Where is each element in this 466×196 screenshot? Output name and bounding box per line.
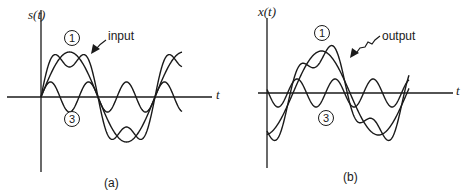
y-axis-label: s(t) (28, 7, 45, 22)
label-1: 1 (69, 32, 75, 44)
label-3: 3 (323, 112, 329, 124)
output-label: output (382, 29, 416, 43)
t-axis-label: t (456, 83, 460, 98)
arrow-head-icon (350, 48, 359, 58)
output-arrow (357, 36, 380, 52)
caption-b: (b) (343, 170, 358, 184)
caption-a: (a) (104, 176, 119, 190)
input-label: input (108, 29, 135, 43)
panel-a: s(t) t 1 3 input (a) (7, 7, 220, 190)
t-axis-label: t (216, 87, 220, 102)
label-1: 1 (319, 27, 325, 39)
figure: s(t) t 1 3 input (a) x(t) t 1 3 output (… (0, 0, 466, 196)
label-3: 3 (69, 113, 75, 125)
y-axis-label: x(t) (257, 4, 276, 19)
panel-b: x(t) t 1 3 output (b) (257, 4, 460, 184)
